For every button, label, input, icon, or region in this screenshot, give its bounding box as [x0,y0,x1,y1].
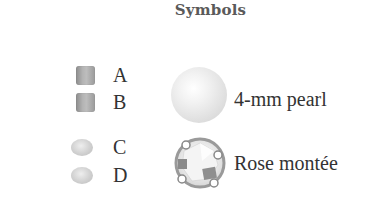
legend-title: Symbols [0,1,385,19]
bead-label-b: B [113,92,126,112]
bead-label-c: C [113,137,126,157]
rose-montee-label: Rose montée [234,153,338,173]
square-bead-icon [76,66,95,85]
bead-label-d: D [113,165,127,185]
square-bead-icon [76,93,95,112]
bead-label-a: A [113,65,127,85]
pearl-label: 4-mm pearl [234,89,327,109]
oval-bead-icon [71,167,93,184]
oval-bead-icon [71,139,93,156]
rose-montee-icon [172,135,228,191]
pearl-icon [171,67,227,123]
